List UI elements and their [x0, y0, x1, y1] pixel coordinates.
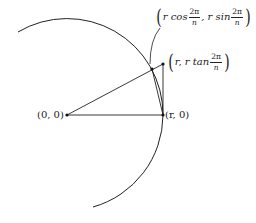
label-tangent: (r, r tan2πn)	[167, 52, 231, 72]
chord-line	[152, 69, 163, 115]
point-tangent	[161, 62, 164, 65]
angle-line	[67, 64, 163, 115]
fraction: 2πn	[231, 8, 243, 26]
fraction: 2πn	[189, 8, 201, 26]
fraction: 2πn	[210, 53, 222, 71]
point-on-circle	[150, 67, 153, 70]
label-r0: (r, 0)	[165, 110, 189, 120]
label-pointer	[150, 28, 160, 64]
label-origin: (0, 0)	[37, 110, 64, 120]
label-on-circle: (r cos2πn, r sin2πn)	[155, 7, 252, 27]
point-origin	[65, 113, 68, 116]
